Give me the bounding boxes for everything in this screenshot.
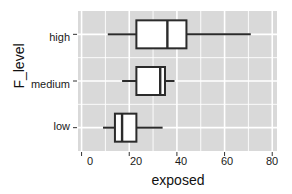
- box-rect: [136, 20, 186, 48]
- box-rect: [115, 114, 136, 142]
- plot-panel: [0, 0, 292, 194]
- boxplot-figure: F_level high medium low 0 20 40 60 80 ex…: [0, 0, 292, 194]
